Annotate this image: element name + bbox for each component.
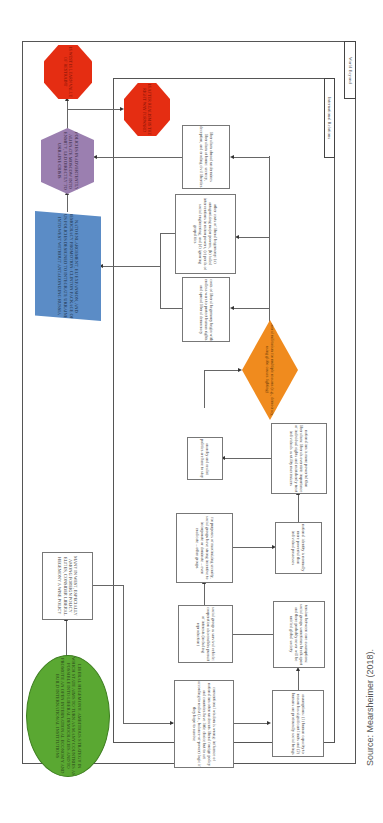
source-text: Source: Mearsheimer (2018).	[365, 649, 375, 766]
other-costs-text: other costs of liberal hegemony: (a) ant…	[193, 195, 218, 273]
realism-forward-text: IS AFTER REALISM IS THE RIGHT WAY FORWAR…	[142, 83, 152, 136]
liberal-hegemony-ellipse: LIBERAL HEGEMONY: AMBITIOUS STRATEGY IN …	[26, 655, 110, 777]
nationalism-powerful-text: nationalism is more powerful than libera…	[289, 424, 309, 493]
social-group-text: social group as survival vehicle: cooper…	[196, 606, 216, 662]
international-relations-label: International Relations	[324, 78, 335, 158]
liberal-hegemony-text: LIBERAL HEGEMONY: AMBITIOUS STRATEGY IN …	[54, 656, 82, 776]
purposes-security-box: for purposes of maximizing security, soc…	[176, 513, 233, 583]
policies-inadvertently-hexagon: POLICIES INADVERTENTLY ALIENATE MOSCOW I…	[41, 128, 94, 194]
connector-line	[298, 494, 299, 522]
arrow-head	[238, 368, 242, 372]
connector-line	[269, 156, 270, 324]
anarchy-realist-text: anarchy and realist politics are here to…	[200, 438, 210, 479]
tension-text: tension between core assumptions: social…	[289, 602, 309, 667]
arrow-head	[267, 721, 271, 725]
other-costs-box: other costs of liberal hegemony: (a) ant…	[175, 194, 236, 274]
assumptions-box: assumptions: (1) human capacity to reaso…	[272, 690, 324, 757]
tension-box: tension between core assumptions: social…	[273, 601, 325, 668]
costs-liberal-box: costs of liberal hegemony begin with end…	[182, 277, 230, 342]
connector-line	[160, 233, 175, 234]
conventional-wisdom-text: conventional wisdom is wrong: influence …	[192, 681, 217, 767]
connector-line	[160, 308, 182, 309]
connector-line	[123, 723, 173, 724]
connector-line	[160, 233, 161, 309]
liberalism-abroad-box: liberalism abroad undermines liberalism …	[182, 125, 230, 189]
connector-line	[238, 237, 269, 238]
world-beyond-text: World Beyond	[348, 57, 353, 84]
social-group-box: social group as survival vehicle: cooper…	[178, 605, 233, 663]
assumptions-text: assumptions: (1) human capacity to reaso…	[291, 691, 306, 756]
west-restraint-text: IS WEST IS LEARN VALUE OF RESTRAINT	[63, 45, 73, 99]
anarchy-realist-box: anarchy and realist politics are here to…	[187, 437, 223, 480]
connector-line	[102, 266, 160, 267]
connector-line	[233, 157, 269, 158]
national-identity-box: national identity is normally more power…	[275, 522, 322, 574]
world-beyond-label: World Beyond	[344, 41, 356, 99]
connector-line	[123, 585, 124, 723]
national-identity-text: national identity is normally more power…	[291, 523, 306, 573]
many-in-west-box: MANY IN WEST, ESPECIALLY AMONG FOREIGN P…	[42, 552, 93, 620]
arrow-head	[230, 155, 234, 159]
many-in-west-text: MANY IN WEST, ESPECIALLY AMONG FOREIGN P…	[57, 553, 79, 619]
nationalism-powerful-box: nationalism is more powerful than libera…	[271, 423, 327, 494]
policies-inadvertently-text: POLICIES INADVERTENTLY ALIENATE MOSCOW I…	[57, 128, 79, 194]
liberal-militarism-text: liberal militarism for multiple reasons …	[265, 320, 275, 420]
connector-line	[67, 109, 121, 110]
connector-line	[91, 585, 124, 586]
connector-line	[67, 194, 68, 212]
conventional-wisdom-box: conventional wisdom is wrong: influence …	[174, 680, 234, 768]
international-relations-text: International Relations	[327, 97, 332, 139]
connector-line	[232, 634, 274, 635]
connector-line	[66, 620, 67, 656]
nato-enlargement-parallelogram: NATO ENLARGEMENT, EU EXPANSION, AND DEMO…	[35, 211, 101, 321]
purposes-security-text: for purposes of maximizing security, soc…	[195, 514, 215, 582]
connector-line	[233, 308, 269, 309]
connector-line	[204, 370, 240, 371]
arrow-head	[230, 306, 234, 310]
connector-line	[232, 547, 274, 548]
nato-enlargement-text: NATO ENLARGEMENT, EU EXPANSION, AND DEMO…	[57, 211, 79, 321]
costs-liberal-text: costs of liberal hegemony begin with end…	[199, 278, 214, 341]
connector-line	[204, 583, 205, 606]
connector-line	[204, 370, 205, 408]
connector-line	[96, 157, 182, 158]
source-caption: Source: Mearsheimer (2018).	[360, 628, 380, 788]
arrow-head	[120, 107, 124, 111]
connector-line	[224, 458, 272, 459]
liberalism-abroad-text: liberalism abroad undermines liberalism …	[199, 126, 214, 188]
connector-line	[67, 100, 68, 129]
connector-line	[298, 670, 299, 690]
connector-line	[233, 723, 269, 724]
